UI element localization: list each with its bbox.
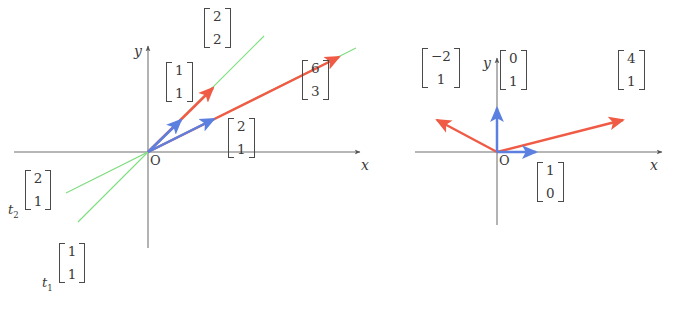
vector-component-top: 2 <box>237 120 246 134</box>
vector-component-top: 2 <box>34 172 43 186</box>
scalar-t2: t2 <box>8 202 19 217</box>
vector-component-bottom: 0 <box>546 187 555 201</box>
vector-component-bottom: 1 <box>68 268 77 282</box>
bracket-right <box>249 118 255 158</box>
vector-component-bottom: 3 <box>311 85 320 99</box>
right-vector-label-1-0: 1 0 <box>537 162 564 205</box>
bracket-right <box>454 48 460 88</box>
vector-component-bottom: 1 <box>237 143 246 157</box>
bracket-right <box>45 170 51 210</box>
scalar-subscript: 1 <box>47 283 52 293</box>
right-vector-label-0-1: 0 1 <box>500 50 527 93</box>
vector-component-bottom: 2 <box>213 33 222 47</box>
left-line-label-t2: t2 2 1 <box>8 170 51 215</box>
bracket-right <box>558 162 564 202</box>
vector-component-top: 6 <box>311 62 320 76</box>
right-origin-label: O <box>499 154 510 167</box>
left-origin-label: O <box>150 154 161 167</box>
left-y-axis-label: y <box>134 44 142 58</box>
vector-component-bottom: 1 <box>34 195 43 209</box>
vector-component-bottom: 1 <box>175 87 184 101</box>
vector-component-top: 0 <box>509 52 518 66</box>
vector-diagram-svg <box>0 0 682 309</box>
bracket-right <box>79 243 85 283</box>
right-x-axis-label: x <box>650 158 658 172</box>
right-vector-label-4-1: 4 1 <box>618 50 645 93</box>
vector-component-top: 1 <box>546 164 555 178</box>
left-vector-label-1-1: 1 1 <box>166 62 193 105</box>
vector-component-top: 1 <box>68 245 77 259</box>
right-vector-label-neg2-1: −2 1 <box>422 48 460 91</box>
bracket-right <box>187 62 193 102</box>
left-vector-label-2-1: 2 1 <box>228 118 255 161</box>
right-blue-vectors <box>497 108 536 152</box>
bracket-right <box>323 60 329 100</box>
bracket-right <box>639 50 645 90</box>
vector-component-top: 2 <box>213 10 222 24</box>
vector-component-top: 4 <box>627 52 636 66</box>
figure-canvas: y x O 1 1 2 2 2 1 6 3 t2 <box>0 0 682 309</box>
vector-component-top: −2 <box>431 50 451 64</box>
scalar-subscript: 2 <box>13 210 18 220</box>
left-blue-vectors <box>148 119 214 152</box>
vector-component-bottom: 1 <box>509 75 518 89</box>
vector-component-top: 1 <box>175 64 184 78</box>
bracket-right <box>225 8 231 48</box>
right-y-axis-label: y <box>483 56 491 70</box>
left-vector-label-6-3: 6 3 <box>302 60 329 103</box>
vector-component-bottom: 1 <box>627 75 636 89</box>
right-red-vectors <box>437 120 623 152</box>
left-vector-label-2-2: 2 2 <box>204 8 231 51</box>
vector-component-bottom: 1 <box>437 73 446 87</box>
bracket-right <box>521 50 527 90</box>
scalar-t1: t1 <box>42 275 53 290</box>
left-x-axis-label: x <box>361 158 369 172</box>
left-line-label-t1: t1 1 1 <box>42 243 85 288</box>
